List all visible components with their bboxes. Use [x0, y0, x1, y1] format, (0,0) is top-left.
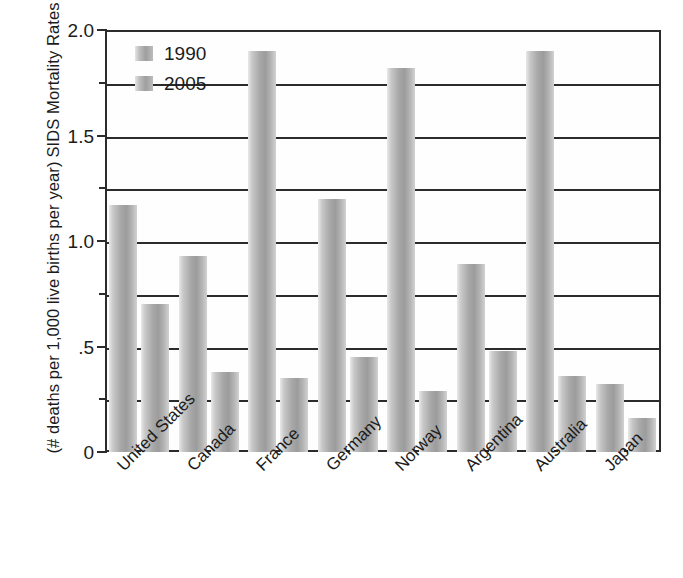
bar-1990 — [526, 51, 554, 452]
y-tick-label: 2.0 — [14, 21, 94, 40]
legend-label: 1990 — [164, 44, 206, 63]
bar-group — [387, 30, 453, 452]
legend-item-1990: 1990 — [135, 44, 206, 63]
x-axis-category-labels: United StatesCanadaFranceGermanyNorwayAr… — [105, 452, 661, 578]
bar-1990 — [248, 51, 276, 452]
legend-swatch-icon — [135, 76, 153, 91]
bar-group — [248, 30, 314, 452]
y-tick-label: .5 — [14, 338, 94, 357]
y-tick-label: 1.5 — [14, 127, 94, 146]
bar-group — [596, 30, 662, 452]
bar-1990 — [109, 205, 137, 452]
bar-group — [318, 30, 384, 452]
y-axis-title: SIDS Mortality Rates (# deaths per 1,000… — [30, 8, 76, 448]
legend: 19902005 — [135, 44, 206, 93]
legend-item-2005: 2005 — [135, 74, 206, 93]
bar-1990 — [457, 264, 485, 452]
sids-mortality-bar-chart: SIDS Mortality Rates (# deaths per 1,000… — [0, 0, 683, 578]
y-tick-label: 1.0 — [14, 232, 94, 251]
bar-1990 — [318, 199, 346, 452]
bar-1990 — [387, 68, 415, 452]
bar-group — [457, 30, 523, 452]
bar-group — [526, 30, 592, 452]
legend-swatch-icon — [135, 46, 153, 61]
legend-label: 2005 — [164, 74, 206, 93]
bar-1990 — [179, 256, 207, 452]
y-tick-label: 0 — [14, 443, 94, 462]
y-axis-title-line-2: (# deaths per 1,000 live births per year… — [44, 162, 63, 454]
